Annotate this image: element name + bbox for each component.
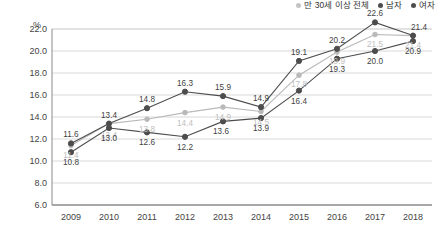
data-label-male: 11.6 bbox=[63, 130, 79, 139]
y-axis-tick-label: 6.0 bbox=[34, 200, 47, 210]
data-label-male: 22.6 bbox=[367, 9, 383, 18]
data-label-total: 14.9 bbox=[215, 113, 231, 122]
data-point-total[interactable] bbox=[183, 110, 188, 115]
data-label-female: 13.9 bbox=[253, 124, 269, 133]
data-label-female: 12.2 bbox=[177, 143, 193, 152]
x-axis-tick-label: 2010 bbox=[99, 212, 119, 222]
data-point-female[interactable] bbox=[372, 48, 377, 53]
data-point-male[interactable] bbox=[182, 89, 187, 94]
x-axis-tick-label: 2016 bbox=[327, 212, 347, 222]
x-axis-tick-label: 2018 bbox=[403, 212, 423, 222]
x-axis-tick-label: 2017 bbox=[365, 212, 385, 222]
data-point-male[interactable] bbox=[106, 121, 111, 126]
y-axis-tick-label: 12.0 bbox=[29, 134, 47, 144]
data-point-total[interactable] bbox=[221, 105, 226, 110]
data-label-male: 19.1 bbox=[291, 48, 307, 57]
line-chart-plot: 6.08.010.012.014.016.018.020.022.0200920… bbox=[0, 0, 439, 236]
data-label-female: 10.8 bbox=[63, 158, 79, 167]
data-label-male: 21.4 bbox=[411, 23, 427, 32]
y-axis-tick-label: 22.0 bbox=[29, 24, 47, 34]
data-label-total: 13.8 bbox=[139, 125, 155, 134]
data-label-female: 12.6 bbox=[139, 138, 155, 147]
y-axis-tick-label: 10.0 bbox=[29, 156, 47, 166]
data-label-male: 15.9 bbox=[215, 83, 231, 92]
x-axis-tick-label: 2013 bbox=[213, 212, 233, 222]
chart-container: 만 30세 이상 전체 남자 여자 % 6.08.010.012.014.016… bbox=[0, 0, 439, 236]
y-axis-tick-label: 8.0 bbox=[34, 178, 47, 188]
x-axis-tick-label: 2011 bbox=[137, 212, 156, 222]
data-label-female: 19.3 bbox=[329, 65, 345, 74]
data-point-male[interactable] bbox=[144, 106, 149, 111]
data-point-total[interactable] bbox=[145, 117, 150, 122]
data-label-female: 13.0 bbox=[101, 134, 117, 143]
data-label-female: 13.6 bbox=[213, 127, 229, 136]
y-axis-tick-label: 16.0 bbox=[29, 90, 47, 100]
y-axis-tick-label: 18.0 bbox=[29, 68, 47, 78]
x-axis-tick-label: 2012 bbox=[175, 212, 195, 222]
data-point-male[interactable] bbox=[258, 105, 263, 110]
data-point-male[interactable] bbox=[410, 33, 415, 38]
data-label-male: 13.4 bbox=[101, 111, 117, 120]
data-label-male: 16.3 bbox=[177, 79, 193, 88]
x-axis-tick-label: 2015 bbox=[289, 212, 309, 222]
data-point-male[interactable] bbox=[220, 94, 225, 99]
x-axis-tick-label: 2009 bbox=[61, 212, 81, 222]
data-point-total[interactable] bbox=[297, 73, 302, 78]
data-label-total: 21.5 bbox=[367, 40, 383, 49]
data-label-female: 20.9 bbox=[405, 47, 421, 56]
data-point-male[interactable] bbox=[68, 141, 73, 146]
data-point-male[interactable] bbox=[372, 20, 377, 25]
data-label-male: 14.9 bbox=[253, 94, 269, 103]
data-label-total: 17.8 bbox=[291, 80, 307, 89]
data-point-total[interactable] bbox=[373, 32, 378, 37]
x-axis-tick-label: 2014 bbox=[251, 212, 271, 222]
data-label-female: 16.4 bbox=[291, 97, 307, 106]
data-point-male[interactable] bbox=[334, 46, 339, 51]
data-label-female: 20.0 bbox=[367, 57, 383, 66]
data-label-total: 14.4 bbox=[177, 119, 193, 128]
y-axis-tick-label: 14.0 bbox=[29, 112, 47, 122]
data-point-male[interactable] bbox=[296, 58, 301, 63]
data-label-male: 14.8 bbox=[139, 95, 155, 104]
data-point-female[interactable] bbox=[182, 134, 187, 139]
series-line-female bbox=[71, 41, 413, 152]
y-axis-tick-label: 20.0 bbox=[29, 46, 47, 56]
data-label-male: 20.2 bbox=[329, 36, 345, 45]
